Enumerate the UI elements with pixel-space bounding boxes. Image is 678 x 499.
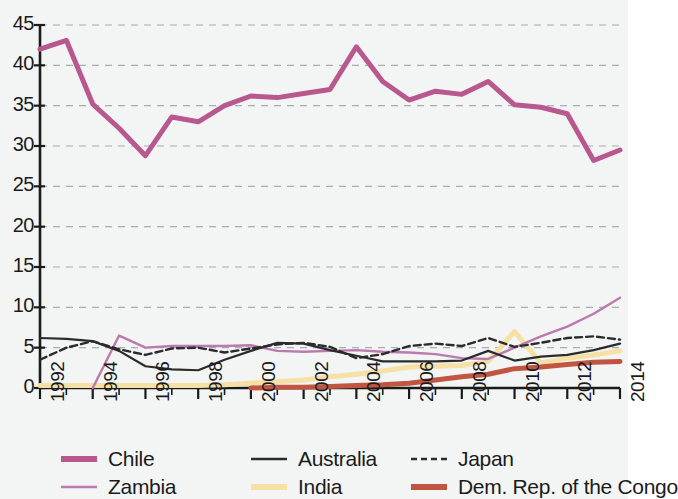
legend-swatch-icon [410, 452, 448, 466]
legend-item[interactable]: India [250, 474, 342, 499]
y-axis-tick-label: 40 [0, 52, 34, 75]
x-axis-tick-label: 2000 [258, 362, 280, 402]
legend-label: Dem. Rep. of the Congo [458, 475, 678, 499]
y-axis-tick-label: 15 [0, 254, 34, 277]
legend-swatch-icon [250, 480, 288, 494]
x-axis-tick-label: 2010 [522, 362, 544, 402]
x-axis-tick-label: 2008 [469, 362, 491, 402]
legend-swatch-icon [60, 480, 98, 494]
chart-legend: ChileAustraliaJapanZambiaIndiaDem. Rep. … [0, 444, 628, 499]
legend-label: Chile [108, 447, 154, 471]
y-axis-tick-label: 10 [0, 294, 34, 317]
legend-item[interactable]: Chile [60, 446, 154, 472]
legend-item[interactable]: Japan [410, 446, 514, 472]
legend-label: Australia [298, 447, 377, 471]
x-axis-tick-label: 1994 [100, 362, 122, 402]
x-axis-tick-label: 2006 [416, 362, 438, 402]
legend-label: Japan [458, 447, 514, 471]
x-axis-tick-label: 2004 [363, 362, 385, 402]
legend-item[interactable]: Australia [250, 446, 377, 472]
legend-label: India [298, 475, 342, 499]
x-axis-tick-label: 1996 [152, 362, 174, 402]
legend-item[interactable]: Dem. Rep. of the Congo [410, 474, 678, 499]
legend-swatch-icon [250, 452, 288, 466]
x-axis-tick-label: 1998 [205, 362, 227, 402]
legend-label: Zambia [108, 475, 176, 499]
x-axis-tick-label: 1992 [47, 362, 69, 402]
y-axis-tick-label: 35 [0, 93, 34, 116]
series-line-chile [40, 40, 620, 160]
data-series-group [40, 40, 620, 388]
axis-ticks [34, 25, 620, 399]
x-axis-tick-label: 2012 [574, 362, 596, 402]
legend-swatch-icon [410, 480, 448, 494]
y-axis-tick-label: 30 [0, 133, 34, 156]
y-axis-tick-label: 25 [0, 173, 34, 196]
y-axis-tick-label: 45 [0, 12, 34, 35]
legend-swatch-icon [60, 452, 98, 466]
y-axis-tick-label: 5 [0, 335, 34, 358]
y-axis-tick-label: 0 [0, 375, 34, 398]
x-axis-tick-label: 2002 [311, 362, 333, 402]
y-axis-tick-label: 20 [0, 214, 34, 237]
axis-lines [40, 25, 620, 388]
legend-item[interactable]: Zambia [60, 474, 176, 499]
x-axis-tick-label: 2014 [627, 362, 649, 402]
grid-lines [40, 25, 620, 388]
